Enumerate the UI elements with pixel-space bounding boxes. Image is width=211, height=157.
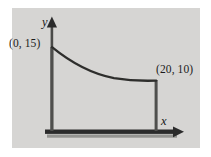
data-curve <box>52 47 156 81</box>
point-label-left: (0, 15) <box>9 38 40 50</box>
point-label-right: (20, 10) <box>156 64 193 76</box>
right-boundary-line <box>155 80 158 131</box>
left-boundary-line <box>50 47 53 131</box>
graph-canvas <box>0 0 211 157</box>
baseline-shadow <box>47 135 177 138</box>
figure-root: (0, 15) (20, 10) y x <box>0 0 211 157</box>
x-axis-arrow-icon <box>173 126 184 137</box>
y-axis-arrow-icon <box>47 17 57 28</box>
y-axis-label: y <box>42 16 48 29</box>
x-axis-label: x <box>161 115 167 128</box>
